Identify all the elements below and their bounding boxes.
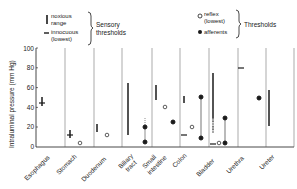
y-tick-label: 80 — [27, 64, 35, 71]
legend-thresholds: reflex (lowest) afferents Thresholds — [198, 10, 277, 38]
category-label-bladder: Bladder — [195, 156, 216, 177]
legend-sensory-label: Sensory — [96, 21, 121, 29]
y-tick-label: 100 — [23, 45, 34, 52]
legend-thresholds-label: Thresholds — [244, 21, 277, 28]
y-axis-label: Intraluminal pressure (mm Hg) — [8, 60, 16, 148]
legend-reflex-label-2: (lowest) — [204, 18, 225, 24]
brace-icon — [236, 10, 241, 38]
y-tick-label: 0 — [30, 143, 34, 150]
chart: noxious range innocuous (lowest) Sensory… — [0, 0, 297, 189]
y-tick-label: 40 — [27, 104, 35, 111]
category-label-stomach: Stomach — [55, 152, 78, 175]
legend-innocuous-label-2: (lowest) — [51, 36, 72, 42]
category-label-urethra: Urethra — [225, 154, 246, 175]
legend-sensory: noxious range innocuous (lowest) Sensory… — [44, 12, 127, 45]
legend-innocuous-label: innocuous — [51, 29, 78, 35]
category-label-esophagus: Esophagus — [23, 153, 52, 182]
reflex-circle-icon — [198, 14, 202, 18]
y-axis: 0 20 40 60 80 100 Intraluminal pressure … — [8, 45, 294, 150]
legend-noxious-label: noxious — [51, 13, 72, 19]
legend-sensory-label-2: thresholds — [96, 29, 127, 36]
brace-icon — [88, 12, 93, 45]
category-label-colon: Colon — [171, 151, 188, 168]
legend-reflex-label: reflex — [204, 11, 219, 17]
legend-afferents-label: afferents — [204, 29, 227, 35]
x-tick-labels: Esophagus Stomach Duodenum Biliary tract… — [23, 151, 276, 182]
y-tick-label: 60 — [27, 84, 35, 91]
category-label-duodenum: Duodenum — [80, 155, 107, 182]
legend-noxious-label-2: range — [51, 20, 67, 26]
data-marks — [39, 68, 269, 145]
y-tick-label: 20 — [27, 123, 35, 130]
category-label-ureter: Ureter — [258, 152, 276, 170]
afferents-dot-icon — [198, 30, 202, 34]
